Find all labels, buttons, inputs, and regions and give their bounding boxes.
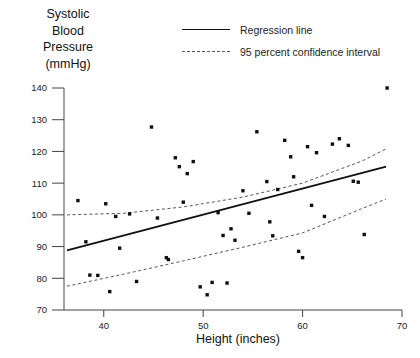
data-point xyxy=(135,280,138,283)
y-axis: 708090100110120130140 xyxy=(31,82,64,315)
data-point xyxy=(96,274,99,277)
data-point xyxy=(352,180,355,183)
data-point xyxy=(221,234,224,237)
x-tick-label: 40 xyxy=(98,320,109,331)
data-point xyxy=(233,239,236,242)
data-point xyxy=(276,188,279,191)
y-tick-label: 80 xyxy=(36,273,47,284)
data-point xyxy=(306,145,309,148)
data-point xyxy=(331,142,334,145)
x-axis: 40506070 xyxy=(64,310,407,331)
y-tick-label: 140 xyxy=(31,82,47,93)
data-point xyxy=(128,212,131,215)
data-point xyxy=(216,211,219,214)
legend-swatch-solid-line-icon xyxy=(182,25,230,35)
y-tick-label: 120 xyxy=(31,146,47,157)
regression-line-path xyxy=(67,167,386,251)
y-tick-label: 90 xyxy=(36,241,47,252)
data-point xyxy=(292,175,295,178)
data-point xyxy=(156,216,159,219)
data-point xyxy=(182,200,185,203)
chart-legend: Regression line 95 percent confidence in… xyxy=(182,19,418,63)
data-point xyxy=(178,165,181,168)
y-tick-label: 70 xyxy=(36,304,47,315)
regression-line xyxy=(67,167,386,251)
legend-item-confidence-interval: 95 percent confidence interval xyxy=(182,41,418,63)
ci-upper-bound xyxy=(67,149,386,215)
ci-lower-bound xyxy=(67,199,386,286)
data-point xyxy=(88,273,91,276)
data-point xyxy=(229,227,232,230)
legend-item-regression-line: Regression line xyxy=(182,19,418,41)
y-axis-title: Systolic Blood Pressure (mmHg) xyxy=(14,6,122,72)
scatter-plot-figure: Systolic Blood Pressure (mmHg) Regressio… xyxy=(0,0,420,358)
data-point xyxy=(225,281,228,284)
legend-swatch-dashed-line-icon xyxy=(182,47,230,57)
data-point xyxy=(210,281,213,284)
data-point xyxy=(268,220,271,223)
data-point xyxy=(118,246,121,249)
data-point xyxy=(347,144,350,147)
data-point xyxy=(186,172,189,175)
data-point xyxy=(174,156,177,159)
data-point xyxy=(323,215,326,218)
data-point xyxy=(310,204,313,207)
data-point xyxy=(205,293,208,296)
data-point xyxy=(289,155,292,158)
data-points xyxy=(76,86,389,296)
data-point xyxy=(150,125,153,128)
y-tick-label: 130 xyxy=(31,114,47,125)
data-point xyxy=(265,180,268,183)
data-point xyxy=(338,137,341,140)
data-point xyxy=(241,189,244,192)
x-tick-label: 60 xyxy=(297,320,308,331)
data-point xyxy=(198,285,201,288)
x-axis-title: Height (inches) xyxy=(196,332,280,346)
data-point xyxy=(363,233,366,236)
legend-label-confidence-interval: 95 percent confidence interval xyxy=(240,46,380,58)
data-point xyxy=(108,290,111,293)
y-tick-label: 110 xyxy=(32,178,47,189)
data-point xyxy=(114,215,117,218)
data-point xyxy=(357,180,360,183)
x-tick-label: 50 xyxy=(198,320,209,331)
data-point xyxy=(84,240,87,243)
data-point xyxy=(315,151,318,154)
data-point xyxy=(297,250,300,253)
data-point xyxy=(301,256,304,259)
y-tick-label: 100 xyxy=(31,209,47,220)
legend-label-regression-line: Regression line xyxy=(240,24,312,36)
data-point xyxy=(247,212,250,215)
data-point xyxy=(255,130,258,133)
data-point xyxy=(76,199,79,202)
x-tick-label: 70 xyxy=(397,320,408,331)
data-point xyxy=(192,160,195,163)
data-point xyxy=(104,202,107,205)
x-axis-title-wrapper: Height (inches) xyxy=(0,332,420,346)
data-point xyxy=(271,234,274,237)
data-point xyxy=(283,139,286,142)
data-point xyxy=(385,86,388,89)
data-point xyxy=(167,258,170,261)
